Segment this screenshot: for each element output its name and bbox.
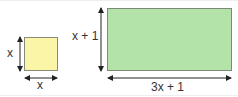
small-square-height-label: x bbox=[7, 47, 13, 59]
small-square-width-label: x bbox=[37, 79, 43, 91]
large-rectangle-width-label: 3x + 1 bbox=[151, 81, 184, 93]
small-square bbox=[25, 38, 58, 71]
large-rectangle bbox=[108, 9, 232, 71]
large-rectangle-height-label: x + 1 bbox=[72, 30, 98, 42]
diagram-canvas bbox=[0, 0, 238, 97]
